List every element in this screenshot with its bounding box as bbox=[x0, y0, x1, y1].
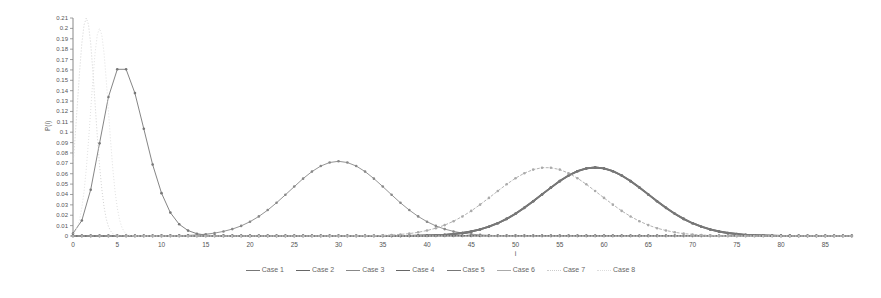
x-tick-label: 25 bbox=[291, 241, 299, 248]
x-axis-label: i bbox=[515, 250, 517, 257]
x-tick-label: 50 bbox=[512, 241, 520, 248]
legend-swatch-icon bbox=[246, 270, 260, 271]
legend-swatch-icon bbox=[447, 270, 461, 271]
x-tick-label: 15 bbox=[202, 241, 210, 248]
x-tick-label: 40 bbox=[423, 241, 431, 248]
y-tick-label: 0.12 bbox=[56, 108, 68, 114]
legend-item-case-5: Case 5 bbox=[447, 266, 485, 273]
legend-item-case-8: Case 8 bbox=[597, 266, 635, 273]
legend-item-case-6: Case 6 bbox=[497, 266, 535, 273]
y-tick-label: 0.15 bbox=[56, 77, 68, 83]
x-tick-label: 35 bbox=[379, 241, 387, 248]
x-tick-label: 10 bbox=[158, 241, 166, 248]
x-tick-label: 60 bbox=[600, 241, 608, 248]
legend-label: Case 5 bbox=[463, 266, 485, 273]
series-case-5 bbox=[72, 166, 853, 237]
x-tick-label: 0 bbox=[71, 241, 75, 248]
x-tick-label: 30 bbox=[335, 241, 343, 248]
x-tick-label: 85 bbox=[822, 241, 830, 248]
legend-item-case-1: Case 1 bbox=[246, 266, 284, 273]
x-tick-label: 5 bbox=[115, 241, 119, 248]
legend-item-case-7: Case 7 bbox=[547, 266, 585, 273]
x-tick-label: 55 bbox=[556, 241, 564, 248]
y-tick-label: 0.19 bbox=[56, 36, 68, 42]
y-tick-label: 0.13 bbox=[56, 98, 68, 104]
legend-swatch-icon bbox=[346, 270, 360, 271]
y-tick-label: 0.07 bbox=[56, 160, 68, 166]
legend-item-case-3: Case 3 bbox=[346, 266, 384, 273]
legend-swatch-icon bbox=[597, 270, 611, 271]
x-tick-label: 65 bbox=[645, 241, 653, 248]
y-tick-label: 0.05 bbox=[56, 181, 68, 187]
legend-swatch-icon bbox=[296, 270, 310, 271]
y-tick-label: 0.01 bbox=[56, 223, 68, 229]
legend-label: Case 1 bbox=[262, 266, 284, 273]
x-tick-label: 20 bbox=[246, 241, 254, 248]
legend-label: Case 4 bbox=[412, 266, 434, 273]
legend-label: Case 8 bbox=[613, 266, 635, 273]
y-tick-label: 0.11 bbox=[57, 119, 69, 125]
legend-label: Case 7 bbox=[563, 266, 585, 273]
legend-item-case-4: Case 4 bbox=[396, 266, 434, 273]
y-tick-label: 0.03 bbox=[56, 202, 68, 208]
series-case-6 bbox=[72, 166, 853, 237]
y-tick-label: 0.21 bbox=[56, 15, 68, 21]
plot-svg: 00.010.020.030.040.050.060.070.080.090.1… bbox=[0, 0, 881, 298]
y-tick-label: 0.1 bbox=[60, 129, 69, 135]
y-tick-label: 0.2 bbox=[60, 25, 69, 31]
chart-area: 00.010.020.030.040.050.060.070.080.090.1… bbox=[0, 0, 881, 298]
legend-label: Case 3 bbox=[362, 266, 384, 273]
y-tick-label: 0.18 bbox=[56, 46, 68, 52]
x-tick-label: 75 bbox=[733, 241, 741, 248]
chart-legend: Case 1Case 2Case 3Case 4Case 5Case 6Case… bbox=[0, 266, 881, 273]
x-tick-label: 70 bbox=[689, 241, 697, 248]
y-tick-label: 0.17 bbox=[56, 57, 68, 63]
legend-label: Case 2 bbox=[312, 266, 334, 273]
y-tick-label: 0.06 bbox=[56, 171, 68, 177]
x-tick-label: 45 bbox=[468, 241, 476, 248]
y-tick-label: 0.09 bbox=[56, 140, 68, 146]
series-case-7 bbox=[73, 18, 852, 236]
series-case-4 bbox=[72, 166, 853, 237]
legend-swatch-icon bbox=[396, 270, 410, 271]
x-tick-label: 80 bbox=[777, 241, 785, 248]
series-case-1 bbox=[72, 68, 853, 237]
legend-label: Case 6 bbox=[513, 266, 535, 273]
series-case-8 bbox=[73, 28, 852, 236]
series-case-3 bbox=[72, 160, 853, 237]
y-tick-label: 0.08 bbox=[56, 150, 68, 156]
legend-item-case-2: Case 2 bbox=[296, 266, 334, 273]
legend-swatch-icon bbox=[497, 270, 511, 271]
y-tick-label: 0.14 bbox=[56, 88, 68, 94]
y-tick-label: 0.04 bbox=[56, 191, 68, 197]
y-tick-label: 0.16 bbox=[56, 67, 68, 73]
legend-swatch-icon bbox=[547, 270, 561, 271]
y-axis-label: P(i) bbox=[44, 121, 52, 131]
y-tick-label: 0 bbox=[65, 233, 69, 239]
y-tick-label: 0.02 bbox=[56, 212, 68, 218]
